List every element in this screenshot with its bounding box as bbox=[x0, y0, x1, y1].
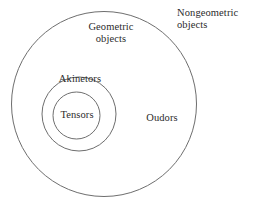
nongeometric-objects-label: Nongeometric objects bbox=[177, 7, 259, 31]
oudors-label: Oudors bbox=[138, 112, 186, 124]
tensors-label: Tensors bbox=[54, 109, 100, 121]
geometric-objects-label: Geometric objects bbox=[72, 21, 150, 45]
akinetors-label: Akinetors bbox=[52, 73, 108, 85]
set-diagram: Geometric objects Nongeometric objects O… bbox=[0, 0, 262, 214]
